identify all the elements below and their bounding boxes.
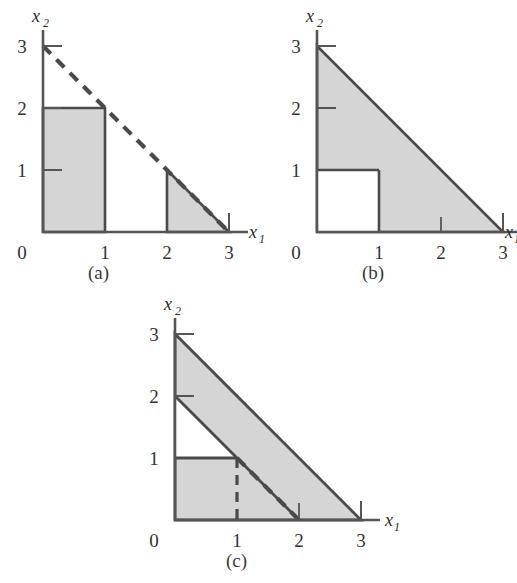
panel-b-y-axis-name: x xyxy=(305,6,314,26)
panel-a-y-axis-sub: 2 xyxy=(43,16,49,30)
panel-c-xtick-label-3: 3 xyxy=(356,530,366,551)
panel-a-caption: (a) xyxy=(88,262,109,284)
panel-a-plot: 3 2 1 0 1 2 3 x 2 x 1 xyxy=(0,0,260,260)
panel-a-ytick-label-1: 1 xyxy=(17,160,27,181)
panel-c: 3 2 1 0 1 2 3 x 2 x 1 (c) xyxy=(130,288,390,553)
panel-b-ytick-label-2: 2 xyxy=(291,98,301,119)
panel-b-ytick-label-3: 3 xyxy=(291,36,301,57)
panel-c-ytick-label-2: 2 xyxy=(149,386,159,407)
panel-a-ytick-label-2: 2 xyxy=(17,98,27,119)
panel-c-xtick-label-2: 2 xyxy=(294,530,304,551)
panel-a-y-axis-name: x xyxy=(31,6,40,26)
excluded-unit-square xyxy=(317,170,379,232)
panel-b-x-axis-name: x xyxy=(504,222,513,242)
panel-a-x-axis-name: x xyxy=(248,222,257,242)
panel-c-origin-label: 0 xyxy=(149,530,159,551)
panel-a-xtick-label-1: 1 xyxy=(100,242,110,263)
panel-c-x-axis-name: x xyxy=(384,510,393,530)
panel-b-caption: (b) xyxy=(362,262,384,284)
panel-b: 3 2 1 0 1 2 3 x 2 x 1 (b) xyxy=(274,0,517,260)
panel-a-origin-label: 0 xyxy=(17,242,27,263)
panel-a-x-axis-sub: 1 xyxy=(259,232,265,246)
panel-b-origin-label: 0 xyxy=(291,242,301,263)
figure-sheet: 3 2 1 0 1 2 3 x 2 x 1 (a) xyxy=(0,0,517,583)
panel-c-x-axis-sub: 1 xyxy=(394,520,400,534)
panel-c-ytick-label-1: 1 xyxy=(149,448,159,469)
panel-b-xtick-label-2: 2 xyxy=(436,242,446,263)
panel-a-xtick-label-2: 2 xyxy=(162,242,172,263)
panel-c-xtick-label-1: 1 xyxy=(232,530,242,551)
panel-b-xtick-label-1: 1 xyxy=(374,242,384,263)
panel-c-ytick-label-3: 3 xyxy=(149,324,159,345)
panel-a-xtick-label-3: 3 xyxy=(224,242,234,263)
panel-c-plot: 3 2 1 0 1 2 3 x 2 x 1 xyxy=(130,288,390,553)
panel-c-y-axis-name: x xyxy=(163,294,172,314)
panel-b-y-axis-sub: 2 xyxy=(317,16,323,30)
panel-b-ytick-label-1: 1 xyxy=(291,160,301,181)
panel-a: 3 2 1 0 1 2 3 x 2 x 1 (a) xyxy=(0,0,260,260)
panel-b-plot: 3 2 1 0 1 2 3 x 2 x 1 xyxy=(274,0,517,260)
panel-c-y-axis-sub: 2 xyxy=(175,304,181,318)
panel-c-caption: (c) xyxy=(226,550,247,572)
panel-b-xtick-label-3: 3 xyxy=(498,242,508,263)
panel-a-ytick-label-3: 3 xyxy=(17,36,27,57)
